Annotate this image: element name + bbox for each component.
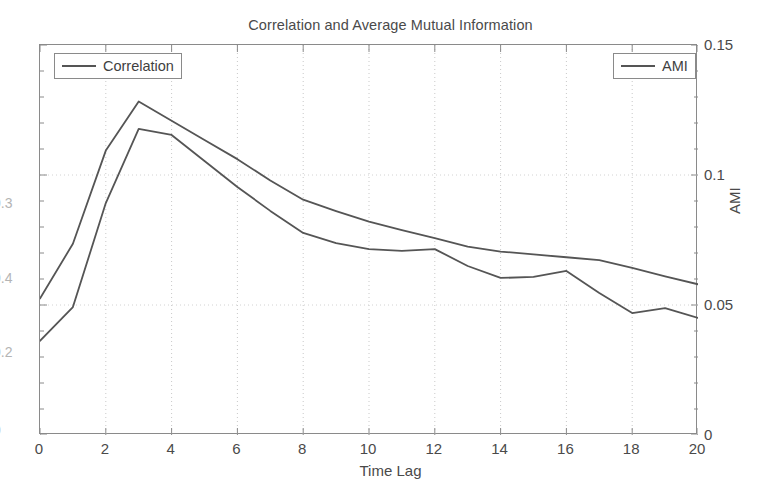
- plot-area: [39, 44, 697, 434]
- y-left-tick-label: 0.3: [0, 195, 12, 211]
- x-tick-label: 2: [101, 440, 109, 457]
- legend-ami[interactable]: AMI: [613, 53, 696, 79]
- y-left-tick-label: 0.4: [0, 270, 12, 286]
- x-tick-label: 14: [491, 440, 508, 457]
- y-axis-right-title: AMI: [726, 187, 743, 214]
- x-tick-label: 12: [425, 440, 442, 457]
- x-tick-label: 10: [360, 440, 377, 457]
- chart-figure: Correlation and Average Mutual Informati…: [0, 0, 781, 492]
- x-tick-label: 16: [557, 440, 574, 457]
- legend-line-swatch-correlation: [62, 65, 96, 67]
- x-tick-label: 20: [689, 440, 706, 457]
- y-right-tick-label: 0.15: [704, 36, 733, 53]
- y-left-tick-label: 0.2: [0, 344, 12, 360]
- legend-label-ami: AMI: [662, 58, 688, 74]
- x-tick-label: 0: [35, 440, 43, 457]
- plot-canvas: [40, 45, 698, 435]
- legend-line-swatch-ami: [621, 65, 655, 67]
- axis-tick-marks: [40, 45, 698, 435]
- x-tick-label: 18: [623, 440, 640, 457]
- y-left-tick-label: 0: [0, 422, 1, 438]
- y-right-tick-label: 0.05: [704, 296, 733, 313]
- y-right-tick-label: 0: [704, 426, 712, 443]
- x-axis-title: Time Lag: [0, 462, 781, 479]
- x-tick-label: 8: [298, 440, 306, 457]
- legend-label-correlation: Correlation: [103, 58, 174, 74]
- legend-correlation[interactable]: Correlation: [54, 53, 182, 79]
- chart-title: Correlation and Average Mutual Informati…: [0, 17, 781, 33]
- x-tick-label: 6: [232, 440, 240, 457]
- x-tick-label: 4: [166, 440, 174, 457]
- y-right-tick-label: 0.1: [704, 166, 725, 183]
- gridlines: [40, 45, 698, 435]
